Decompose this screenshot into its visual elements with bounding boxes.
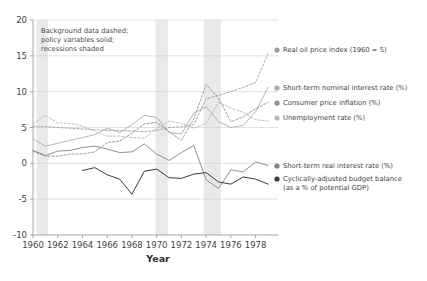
chart-legend: Real oil price index (1960 = 5)Short-ter… (274, 46, 407, 192)
x-tick-label-1962: 1962 (47, 240, 69, 250)
x-tick-label-1976: 1976 (220, 240, 242, 250)
legend-label-5: Cyclically-adjusted budget balance (283, 175, 402, 183)
x-tick-label-1978: 1978 (245, 240, 267, 250)
chart-annotation: Background data dashed;policy variables … (41, 27, 128, 53)
x-tick-label-1970: 1970 (146, 240, 168, 250)
y-axis-tick-labels: -10-505101520 (13, 15, 27, 240)
x-tick-label-1964: 1964 (72, 240, 94, 250)
series-line-2 (33, 85, 268, 157)
series-line-4 (33, 144, 268, 188)
x-tick-label-1960: 1960 (22, 240, 44, 250)
legend-label-3: Unemployment rate (%) (283, 114, 365, 122)
annotation-line-3: recessions shaded (41, 45, 104, 53)
series-line-0 (33, 54, 268, 132)
y-tick-label-10: 10 (16, 87, 27, 97)
legend-marker-5 (274, 176, 279, 181)
y-tick-label-0: 0 (22, 158, 27, 168)
legend-marker-2 (274, 100, 279, 105)
series-line-3 (33, 102, 268, 138)
legend-marker-4 (274, 163, 279, 168)
annotation-line-2: policy variables solid; (41, 36, 114, 44)
x-axis-tick-labels: 1960196219641966196819701972197419761978 (22, 240, 266, 250)
legend-label-2: Consumer price inflation (%) (283, 99, 381, 107)
legend-label-4: Short-term real interest rate (%) (283, 162, 393, 170)
x-tick-label-1974: 1974 (195, 240, 217, 250)
chart-figure: -10-505101520 19601962196419661968197019… (0, 0, 427, 281)
legend-marker-0 (274, 47, 279, 52)
legend-label-6: (as a % of potential GDP) (283, 184, 369, 192)
chart-svg: -10-505101520 19601962196419661968197019… (0, 0, 427, 281)
x-tick-label-1966: 1966 (96, 240, 118, 250)
y-tick-label-20: 20 (16, 15, 27, 25)
series-line-1 (33, 87, 268, 146)
legend-marker-1 (274, 85, 279, 90)
annotation-line-1: Background data dashed; (41, 27, 128, 35)
legend-label-1: Short-term nominal interest rate (%) (283, 84, 408, 92)
legend-label-0: Real oil price index (1960 = 5) (283, 46, 387, 54)
x-tick-label-1972: 1972 (171, 240, 193, 250)
legend-marker-3 (274, 115, 279, 120)
y-tick-label--10: -10 (13, 230, 27, 240)
y-tick-label--5: -5 (19, 194, 27, 204)
x-axis-title: Year (145, 253, 170, 264)
y-tick-label-15: 15 (16, 51, 27, 61)
y-tick-label-5: 5 (22, 123, 27, 133)
data-series-group (33, 54, 268, 194)
x-tick-label-1968: 1968 (121, 240, 143, 250)
